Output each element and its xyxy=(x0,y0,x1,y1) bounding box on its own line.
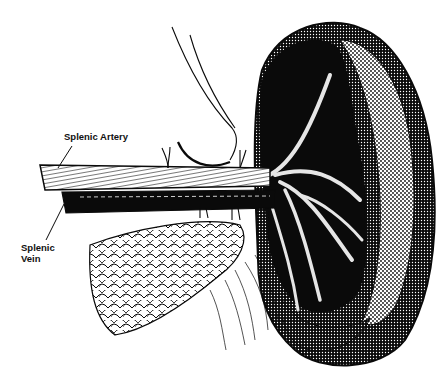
splenic-vein xyxy=(62,190,275,213)
splenic-vein-label-line1: Splenic xyxy=(21,242,55,253)
splenic-artery xyxy=(40,165,270,190)
pancreas xyxy=(90,222,244,335)
vein-leader-line xyxy=(46,204,64,240)
spleen-drawing xyxy=(0,0,440,378)
spleen xyxy=(255,23,435,366)
anatomical-illustration: Splenic Artery Splenic Vein xyxy=(0,0,440,378)
splenic-artery-label: Splenic Artery xyxy=(64,131,128,142)
splenic-vein-label-line2: Vein xyxy=(21,253,41,264)
